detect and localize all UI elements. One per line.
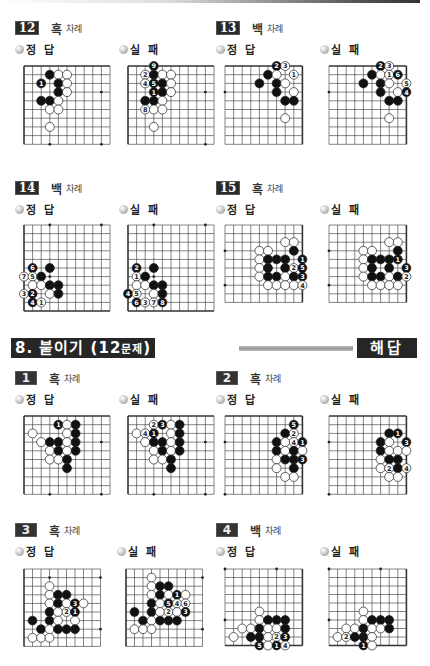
black-stone (350, 633, 359, 642)
white-stone: 5 (402, 79, 411, 88)
go-board-grid: 321 (19, 564, 106, 651)
move-number: 5 (152, 80, 157, 88)
black-stone (281, 429, 290, 438)
white-stone (139, 625, 148, 634)
white-stone: 2 (272, 633, 281, 642)
black-stone: 1 (54, 420, 63, 429)
white-stone (281, 272, 290, 281)
black-stone (156, 582, 165, 591)
black-stone: 1 (71, 608, 80, 617)
white-stone (393, 238, 402, 247)
star-point (224, 493, 227, 496)
white-stone (385, 281, 394, 290)
white-stone (385, 472, 394, 481)
black-stone: 1 (298, 438, 307, 447)
bullet-ball-icon (320, 547, 329, 556)
black-stone (385, 96, 394, 105)
black-stone (147, 599, 156, 608)
white-stone: 2 (62, 608, 71, 617)
black-stone (289, 96, 298, 105)
section-count-close: ) (143, 339, 151, 357)
move-number: 5 (166, 600, 171, 608)
white-stone: 7 (149, 298, 158, 307)
white-stone (272, 70, 281, 79)
black-stone (255, 624, 264, 633)
white-stone (246, 624, 255, 633)
go-board: 924518 (123, 61, 219, 149)
move-number: 9 (152, 62, 157, 70)
white-stone (264, 633, 273, 642)
white-stone (359, 272, 368, 281)
white-stone: 6 (181, 599, 190, 608)
black-stone (393, 246, 402, 255)
black-stone (272, 79, 281, 88)
go-board: 6753241 (19, 220, 115, 316)
black-stone (393, 464, 402, 473)
move-number: 1 (73, 608, 78, 616)
move-number: 5 (257, 642, 262, 650)
white-stone (350, 624, 359, 633)
star-point (100, 493, 103, 496)
go-board: 52413 (220, 411, 307, 499)
white-stone: 3 (281, 62, 290, 71)
move-number: 2 (404, 273, 409, 281)
go-board: 23514 (220, 564, 307, 651)
problem-15: 15흑차례정 답12534실 패132 (216, 180, 421, 330)
turn-color: 백 (250, 522, 261, 539)
black-stone (149, 438, 158, 447)
black-stone (264, 272, 273, 281)
black-stone (149, 70, 158, 79)
star-point (328, 91, 331, 94)
black-stone: 6 (28, 264, 37, 273)
move-number: 3 (300, 273, 305, 281)
move-number: 3 (387, 62, 392, 70)
star-point (328, 619, 331, 622)
turn-color: 흑 (49, 522, 60, 539)
white-stone (167, 420, 176, 429)
move-number: 4 (404, 465, 409, 473)
black-stone (393, 272, 402, 281)
black-stone (45, 281, 54, 290)
black-stone (255, 79, 264, 88)
white-stone: 1 (132, 272, 141, 281)
move-number: 2 (166, 608, 171, 616)
correct-answer-label: 정 답 (216, 544, 257, 558)
black-stone (376, 88, 385, 97)
black-stone: 3 (402, 264, 411, 273)
white-stone (298, 446, 307, 455)
white-stone (368, 624, 377, 633)
move-number: 1 (39, 80, 44, 88)
white-stone (63, 438, 72, 447)
black-stone (62, 590, 71, 599)
white-stone (167, 429, 176, 438)
problem-number-badge: 14 (15, 181, 39, 195)
move-number: 4 (292, 439, 297, 447)
black-stone (175, 446, 184, 455)
white-stone: 2 (141, 70, 150, 79)
move-number: 1 (56, 421, 61, 429)
star-point (204, 441, 207, 444)
go-board-grid: 21456378 (123, 220, 219, 316)
black-stone (385, 616, 394, 625)
diagram-title: 정 답 (26, 391, 56, 407)
white-stone (376, 281, 385, 290)
star-point (201, 576, 204, 579)
white-stone (37, 438, 46, 447)
move-number: 1 (39, 299, 44, 307)
turn-color: 흑 (252, 180, 263, 197)
correct-answer-label: 정 답 (216, 202, 257, 216)
black-stone (281, 255, 290, 264)
white-stone (54, 616, 63, 625)
black-stone (264, 70, 273, 79)
white-stone (255, 616, 264, 625)
black-stone (281, 96, 290, 105)
black-stone: 2 (132, 264, 141, 273)
move-number: 4 (143, 80, 148, 88)
turn-label: 차례 (66, 22, 82, 35)
problem-number-badge: 15 (216, 181, 240, 195)
go-board: 1324 (324, 411, 411, 499)
black-stone (54, 438, 63, 447)
white-stone (28, 633, 37, 642)
white-stone: 7 (20, 272, 29, 281)
go-board-grid: 924518 (123, 61, 219, 149)
